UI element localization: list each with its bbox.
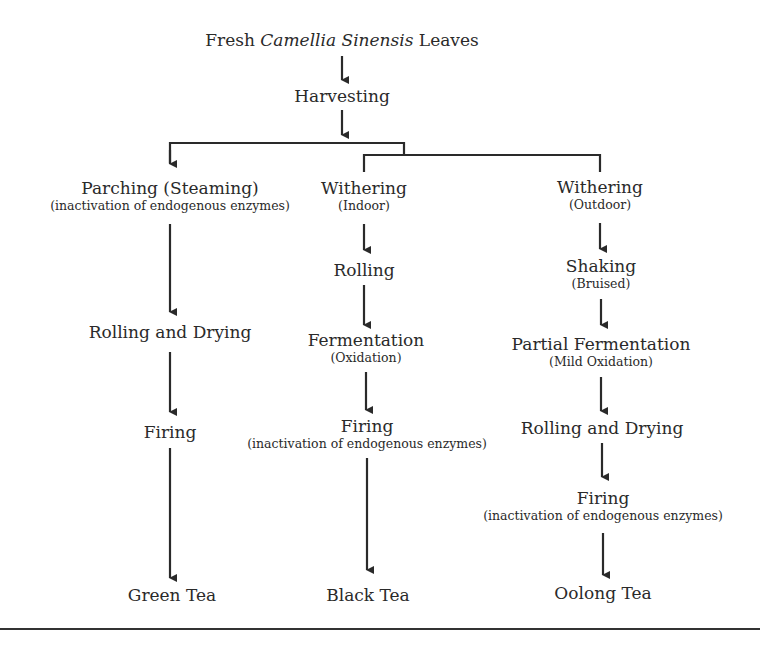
step-note: (inactivation of endogenous enzymes) [483, 508, 723, 523]
node-oolong-rolling-drying: Rolling and Drying [521, 418, 684, 438]
node-shaking: Shaking (Bruised) [566, 256, 636, 291]
step-label: Firing [247, 416, 487, 436]
root-suffix: Leaves [413, 30, 478, 50]
node-rolling: Rolling [333, 260, 394, 280]
root-prefix: Fresh [205, 30, 260, 50]
node-harvesting: Harvesting [294, 86, 390, 106]
step-label: Firing [144, 422, 197, 442]
step-label: Parching (Steaming) [50, 178, 290, 198]
step-note: (Indoor) [321, 198, 407, 213]
step-label: Withering [557, 177, 643, 197]
step-note: (Oxidation) [308, 350, 425, 365]
node-green-firing: Firing [144, 422, 197, 442]
step-label: Oolong Tea [554, 583, 651, 603]
step-note: (Bruised) [566, 276, 636, 291]
node-withering-outdoor: Withering (Outdoor) [557, 177, 643, 212]
step-label: Green Tea [128, 585, 216, 605]
step-label: Firing [483, 488, 723, 508]
node-oolong-tea: Oolong Tea [554, 583, 651, 603]
step-note: (inactivation of endogenous enzymes) [247, 436, 487, 451]
step-label: Shaking [566, 256, 636, 276]
bottom-divider [0, 628, 760, 630]
node-green-rolling-drying: Rolling and Drying [89, 322, 252, 342]
step-note: (inactivation of endogenous enzymes) [50, 198, 290, 213]
node-black-firing: Firing (inactivation of endogenous enzym… [247, 416, 487, 451]
node-fresh-leaves: Fresh Camellia Sinensis Leaves [205, 30, 478, 50]
node-green-tea: Green Tea [128, 585, 216, 605]
root-species: Camellia Sinensis [260, 30, 413, 50]
node-partial-fermentation: Partial Fermentation (Mild Oxidation) [512, 334, 691, 369]
step-label: Partial Fermentation [512, 334, 691, 354]
step-label: Rolling and Drying [521, 418, 684, 438]
step-label: Rolling and Drying [89, 322, 252, 342]
step-note: (Outdoor) [557, 197, 643, 212]
node-parching: Parching (Steaming) (inactivation of end… [50, 178, 290, 213]
step-label: Fermentation [308, 330, 425, 350]
harvesting-label: Harvesting [294, 86, 390, 106]
node-black-tea: Black Tea [326, 585, 410, 605]
node-oolong-firing: Firing (inactivation of endogenous enzym… [483, 488, 723, 523]
node-fermentation: Fermentation (Oxidation) [308, 330, 425, 365]
step-label: Rolling [333, 260, 394, 280]
step-label: Black Tea [326, 585, 410, 605]
step-note: (Mild Oxidation) [512, 354, 691, 369]
step-label: Withering [321, 178, 407, 198]
node-withering-indoor: Withering (Indoor) [321, 178, 407, 213]
